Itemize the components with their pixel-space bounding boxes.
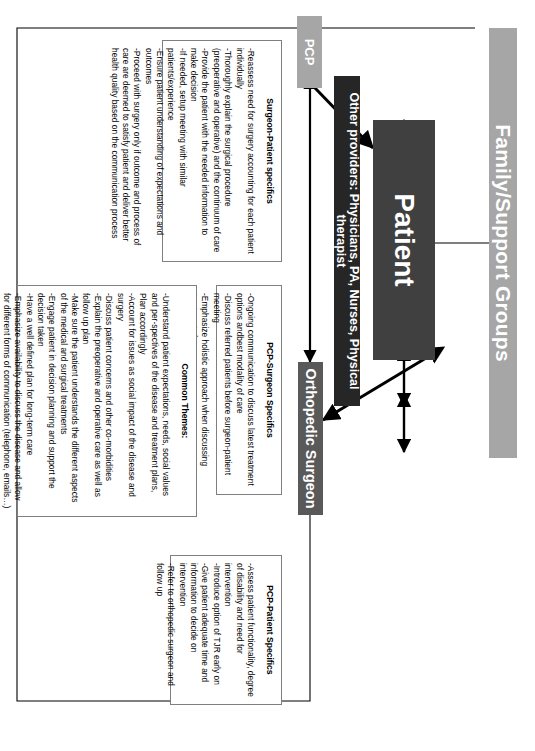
- panel-common-themes: Common Themes: -Understand patient expec…: [17, 285, 197, 517]
- list-item: -Discuss referred patients before surgeo…: [211, 293, 233, 487]
- node-patient[interactable]: Patient: [373, 120, 435, 360]
- list-item: -Provide the patient with the needed inf…: [188, 48, 210, 254]
- list-item: -Refer to orthopedic surgeon and follow …: [154, 563, 176, 697]
- list-item: -Proceed with surgery only if outcome an…: [109, 48, 142, 254]
- list-item: -Give patient adequate time and informat…: [177, 563, 210, 697]
- diagram-canvas: Family/Support Groups Patient Other prov…: [0, 0, 535, 751]
- list-item: -Introduce option of TJR early on: [211, 563, 222, 697]
- list-item: -If needed, setup meeting with similar p…: [165, 48, 187, 254]
- panel-item-list: -Understand patient expectations, needs,…: [1, 293, 171, 509]
- panel-title: Surgeon-Patient specifics: [264, 48, 275, 254]
- list-item: -Have a well defined plan for long-term …: [23, 293, 34, 509]
- list-item: -Thoroughly explain the surgical procedu…: [211, 48, 233, 254]
- list-item: -Assess patient functionality, degree of…: [222, 563, 255, 697]
- list-item: -Ensure patient understanding of expecta…: [143, 48, 165, 254]
- node-family-support-groups[interactable]: Family/Support Groups: [489, 28, 517, 458]
- panel-item-list: -Reassess need for surgery accounting fo…: [109, 48, 256, 254]
- list-item: -Ongoing communication to discuss latest…: [233, 293, 255, 487]
- panel-item-list: -Assess patient functionality, degree of…: [154, 563, 255, 697]
- list-item: -Account for issues as social impact of …: [115, 293, 137, 509]
- panel-pcp-surgeon-specifics: PCP-Surgeon Specifics -Ongoing communica…: [216, 285, 282, 495]
- panel-title: Common Themes:: [179, 293, 190, 509]
- node-pcp[interactable]: PCP: [297, 16, 322, 88]
- list-item: -Make sure the patient understands the d…: [58, 293, 80, 509]
- panel-title: PCP-Surgeon Specifics: [264, 293, 275, 487]
- list-item: -Discuss patient concerns and other co-m…: [103, 293, 114, 509]
- node-other-providers[interactable]: Other providers: Physicians, PA, Nurses,…: [334, 76, 360, 406]
- list-item: -Engage patient in decision planning and…: [35, 293, 57, 509]
- list-item: -Explain the preoperative and operative …: [80, 293, 102, 509]
- panel-pcp-patient-specifics: PCP-Patient Specifics -Assess patient fu…: [170, 555, 282, 705]
- list-item: -Emphasize availability to discuss the d…: [1, 293, 23, 509]
- panel-title: PCP-Patient Specifics: [264, 563, 275, 697]
- panel-surgeon-patient-specifics: Surgeon-Patient specifics -Reassess need…: [162, 40, 282, 262]
- list-item: -Reassess need for surgery accounting fo…: [233, 48, 255, 254]
- node-orthopedic-surgeon[interactable]: Orthopedic Surgeon: [298, 362, 323, 515]
- list-item: -Understand patient expectations, needs,…: [137, 293, 170, 509]
